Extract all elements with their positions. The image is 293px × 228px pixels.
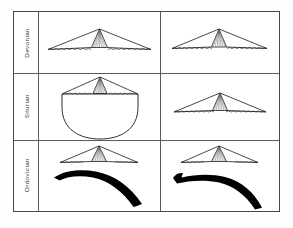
specimen-tent-and-black-crescent-notched (161, 140, 278, 211)
specimen-tent-shell-with-fan (38, 73, 160, 140)
period-label-silurian: Silurian (14, 73, 38, 140)
cell-silurian-right (161, 73, 278, 140)
specimen-tent-and-black-crescent (38, 140, 160, 211)
figure-frame: Devonian Silurian Ordovician (13, 11, 280, 212)
figure-root: Devonian Silurian Ordovician (0, 0, 293, 228)
cell-devonian-left (38, 12, 160, 73)
period-label-column: Devonian Silurian Ordovician (14, 12, 38, 211)
large-rounded-fan-outline (62, 94, 138, 139)
specimen-wide-tent-shell (161, 12, 278, 73)
period-label-ordovician-text: Ordovician (23, 158, 30, 192)
specimen-wide-tent-shell (161, 73, 278, 140)
cell-ordovician-left (38, 140, 160, 211)
cell-silurian-left (38, 73, 160, 140)
period-label-devonian-text: Devonian (23, 28, 30, 58)
period-label-devonian: Devonian (14, 12, 38, 73)
specimen-wide-tent-shell (38, 12, 160, 73)
cell-ordovician-right (161, 140, 278, 211)
period-label-silurian-text: Silurian (23, 94, 30, 118)
black-flat-crescent-notched (173, 173, 262, 210)
period-label-ordovician: Ordovician (14, 140, 38, 211)
cell-devonian-right (161, 12, 278, 73)
black-arched-crescent (54, 170, 142, 207)
